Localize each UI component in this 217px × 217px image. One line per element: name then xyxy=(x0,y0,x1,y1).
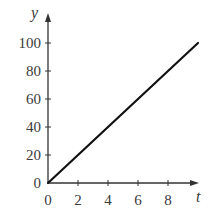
y-axis-arrow-icon xyxy=(45,13,51,22)
x-tick-label: 8 xyxy=(164,192,172,208)
y-tick-label: 20 xyxy=(26,147,41,163)
x-tick-label: 2 xyxy=(74,192,82,208)
data-line xyxy=(48,43,198,183)
x-axis-arrow-icon xyxy=(190,180,199,186)
ticks: 02468020406080100 xyxy=(19,35,172,208)
y-tick-label: 40 xyxy=(26,119,41,135)
x-tick-label: 6 xyxy=(134,192,142,208)
axes xyxy=(45,13,199,186)
y-axis-label: y xyxy=(29,4,39,22)
y-tick-label: 80 xyxy=(26,63,41,79)
data-series xyxy=(48,43,198,183)
chart: 02468020406080100 t y xyxy=(0,0,217,217)
y-tick-label: 60 xyxy=(26,91,41,107)
x-tick-label: 4 xyxy=(104,192,112,208)
x-axis-label: t xyxy=(196,188,201,205)
y-tick-label: 0 xyxy=(34,175,42,191)
x-tick-label: 0 xyxy=(44,192,52,208)
y-tick-label: 100 xyxy=(19,35,42,51)
